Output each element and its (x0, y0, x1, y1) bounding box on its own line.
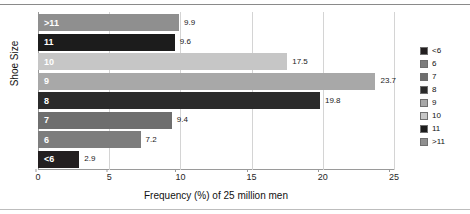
legend-swatch-icon (420, 47, 428, 55)
x-axis-tick-label: 20 (318, 172, 328, 182)
legend: <667891011>11 (420, 44, 445, 148)
bar[interactable]: 1017.5 (38, 53, 287, 70)
bar-value-label: 2.9 (84, 155, 95, 163)
bar-category-label: 11 (38, 37, 54, 47)
legend-item[interactable]: 7 (420, 70, 445, 83)
y-axis-label: Shoe Size (9, 14, 20, 114)
gridline (394, 12, 395, 170)
bar-category-label: <6 (38, 154, 54, 164)
x-axis-tick-mark (175, 169, 176, 172)
bar-category-label: 10 (38, 57, 54, 67)
bar-row: 79.4 (38, 112, 394, 129)
legend-swatch-icon (420, 60, 428, 68)
x-axis-tick-mark (35, 169, 36, 172)
legend-item[interactable]: 10 (420, 109, 445, 122)
x-axis-ticks: 0510152025 (38, 172, 394, 186)
x-axis-label: Frequency (%) of 25 million men (38, 190, 394, 201)
legend-swatch-icon (420, 112, 428, 120)
legend-swatch-icon (420, 86, 428, 94)
x-axis-tick-label: 10 (175, 172, 185, 182)
legend-label: 10 (432, 112, 441, 120)
bar[interactable]: 819.8 (38, 92, 320, 109)
x-axis-tick-mark (107, 169, 108, 172)
bar[interactable]: <62.9 (38, 151, 79, 168)
bar-value-label: 23.7 (380, 77, 396, 85)
bar-row: 67.2 (38, 131, 394, 148)
bar-row: 1017.5 (38, 53, 394, 70)
legend-item[interactable]: >11 (420, 135, 445, 148)
chart-top-border (0, 4, 470, 5)
bar-row: <62.9 (38, 151, 394, 168)
bar-row: 923.7 (38, 73, 394, 90)
bar-value-label: 9.6 (180, 38, 191, 46)
bar-category-label: >11 (38, 18, 59, 28)
legend-label: <6 (432, 47, 441, 55)
legend-item[interactable]: 9 (420, 96, 445, 109)
legend-item[interactable]: 11 (420, 122, 445, 135)
legend-item[interactable]: <6 (420, 44, 445, 57)
bar[interactable]: >119.9 (38, 14, 179, 31)
x-axis-tick-label: 5 (107, 172, 112, 182)
bar-value-label: 9.9 (184, 19, 195, 27)
legend-item[interactable]: 6 (420, 57, 445, 70)
bar[interactable]: 923.7 (38, 73, 375, 90)
legend-label: 11 (432, 125, 440, 133)
bar-row: 119.6 (38, 34, 394, 51)
bar-value-label: 19.8 (325, 97, 341, 105)
bar-category-label: 7 (38, 115, 49, 125)
bar-category-label: 6 (38, 135, 49, 145)
legend-swatch-icon (420, 73, 428, 81)
legend-label: 8 (432, 86, 436, 94)
legend-item[interactable]: 8 (420, 83, 445, 96)
bar[interactable]: 119.6 (38, 34, 175, 51)
bar[interactable]: 79.4 (38, 112, 172, 129)
chart-bottom-border (0, 209, 470, 210)
bar-value-label: 9.4 (177, 116, 188, 124)
bar-series: >119.9119.61017.5923.7819.879.467.2<62.9 (38, 12, 394, 170)
x-axis-tick-label: 0 (35, 172, 40, 182)
bar-chart: >119.9119.61017.5923.7819.879.467.2<62.9… (0, 0, 470, 214)
x-axis-tick-label: 15 (247, 172, 257, 182)
bar-category-label: 9 (38, 76, 49, 86)
x-axis-tick-label: 25 (389, 172, 399, 182)
legend-swatch-icon (420, 99, 428, 107)
x-axis-tick-mark (318, 169, 319, 172)
bar-value-label: 7.2 (146, 136, 157, 144)
x-axis-tick-mark (247, 169, 248, 172)
bar-value-label: 17.5 (292, 58, 308, 66)
bar[interactable]: 67.2 (38, 131, 141, 148)
plot-area: >119.9119.61017.5923.7819.879.467.2<62.9 (38, 12, 394, 170)
legend-label: 9 (432, 99, 436, 107)
legend-label: >11 (432, 138, 445, 146)
legend-swatch-icon (420, 125, 428, 133)
legend-swatch-icon (420, 138, 428, 146)
legend-label: 7 (432, 73, 436, 81)
bar-category-label: 8 (38, 96, 49, 106)
x-axis-tick-mark (389, 169, 390, 172)
bar-row: >119.9 (38, 14, 394, 31)
legend-label: 6 (432, 60, 436, 68)
bar-row: 819.8 (38, 92, 394, 109)
